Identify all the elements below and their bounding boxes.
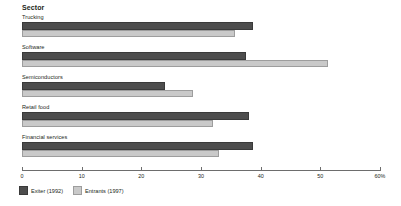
bar-entrants: [22, 90, 193, 97]
bar-group-label: Software: [22, 44, 44, 51]
axis-tick-label: 10: [79, 173, 85, 179]
legend-swatch-exiter-icon: [19, 186, 28, 195]
bar-group: Semiconductors: [22, 74, 380, 104]
axis-tick-label: 50: [317, 173, 323, 179]
legend-label-exiter: Exiter (1992): [31, 188, 63, 194]
bar-exiter: [22, 22, 253, 30]
bar-chart: Sector TruckingSoftwareSemiconductorsRet…: [0, 0, 401, 206]
bar-group: Trucking: [22, 14, 380, 44]
bar-group-label: Semiconductors: [22, 74, 63, 81]
bar-exiter: [22, 142, 253, 150]
bar-exiter: [22, 82, 165, 90]
axis-tick-label: 20: [138, 173, 144, 179]
bar-entrants: [22, 30, 235, 37]
legend-swatch-entrants-icon: [73, 186, 82, 195]
axis-tick-label: 30: [198, 173, 204, 179]
axis-tick-label: 40: [258, 173, 264, 179]
axis-tick: [82, 167, 83, 171]
bar-group-label: Retail food: [22, 104, 49, 111]
bar-entrants: [22, 60, 328, 67]
chart-legend: Exiter (1992) Entrants (1997): [19, 186, 124, 195]
legend-item-entrants: Entrants (1997): [73, 186, 124, 195]
axis-tick: [380, 167, 381, 171]
plot-area: TruckingSoftwareSemiconductorsRetail foo…: [22, 14, 380, 170]
bar-exiter: [22, 52, 246, 60]
bar-group-label: Trucking: [22, 14, 44, 21]
bar-entrants: [22, 120, 213, 127]
axis-tick-label: 0: [21, 173, 24, 179]
axis-tick-label: 60%: [375, 173, 386, 179]
bar-entrants: [22, 150, 219, 157]
category-axis-title: Sector: [22, 4, 44, 11]
axis-tick: [261, 167, 262, 171]
bar-group: Software: [22, 44, 380, 74]
bar-group: Retail food: [22, 104, 380, 134]
legend-item-exiter: Exiter (1992): [19, 186, 63, 195]
bar-group: Financial services: [22, 134, 380, 164]
bar-exiter: [22, 112, 249, 120]
axis-tick: [141, 167, 142, 171]
legend-label-entrants: Entrants (1997): [85, 188, 124, 194]
bar-group-label: Financial services: [22, 134, 67, 141]
axis-tick: [201, 167, 202, 171]
axis-tick: [320, 167, 321, 171]
axis-tick: [22, 167, 23, 171]
